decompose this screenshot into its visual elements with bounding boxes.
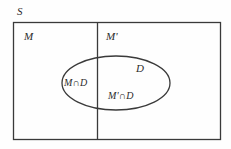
- venn-diagram-figure: S M M' D M∩D M'∩D: [0, 0, 231, 149]
- label-set-m-prime: M': [106, 31, 118, 42]
- label-m-prime-intersect-d: M'∩D: [108, 91, 134, 101]
- label-m-intersect-d: M∩D: [64, 78, 87, 88]
- venn-diagram-canvas: [0, 0, 231, 149]
- label-set-m: M: [24, 31, 33, 42]
- label-universal-set: S: [17, 6, 23, 17]
- label-set-d: D: [136, 63, 144, 74]
